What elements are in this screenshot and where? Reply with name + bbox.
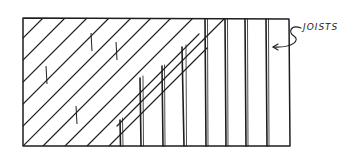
joist-partial	[165, 65, 166, 146]
joist	[248, 19, 249, 146]
joist	[225, 19, 226, 146]
joist	[266, 19, 267, 146]
joist	[245, 19, 246, 146]
frame	[23, 18, 290, 146]
joist-partial	[162, 66, 163, 146]
joist-partial	[140, 78, 141, 146]
board-seams	[46, 33, 117, 124]
joists-label: JOISTS	[303, 22, 338, 32]
joist-partial	[120, 120, 121, 146]
callout-arrow	[273, 27, 301, 50]
joist-partial	[186, 45, 187, 146]
joist	[228, 19, 229, 146]
joist-partial	[182, 47, 184, 146]
diagonal-boards	[23, 18, 225, 146]
joist	[208, 19, 209, 146]
joist	[269, 19, 270, 146]
